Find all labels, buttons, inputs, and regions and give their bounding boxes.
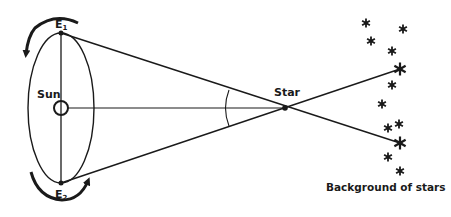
background-star-icon [388, 81, 396, 90]
background-star-icon [367, 37, 375, 46]
background-star-icon [384, 124, 392, 133]
background-star-icon [396, 167, 404, 176]
background-star-icon [388, 47, 396, 56]
background-star-icon [362, 19, 370, 28]
label-background-stars: Background of stars [326, 181, 446, 193]
background-star-icon [378, 100, 386, 109]
background-star-icon [399, 25, 407, 34]
label-sun: Sun [37, 88, 61, 101]
label-e2: E2 [55, 188, 68, 202]
background-star-icon [384, 153, 392, 162]
background-star-icon [394, 63, 405, 76]
parallax-diagram: E1 E2 Sun Star Background of stars [0, 0, 451, 217]
near-star-point [282, 105, 288, 111]
label-star: Star [274, 86, 301, 99]
background-stars [362, 19, 407, 176]
background-star-icon [394, 137, 405, 150]
earth-position-e2 [59, 181, 64, 186]
background-star-icon [395, 120, 403, 129]
